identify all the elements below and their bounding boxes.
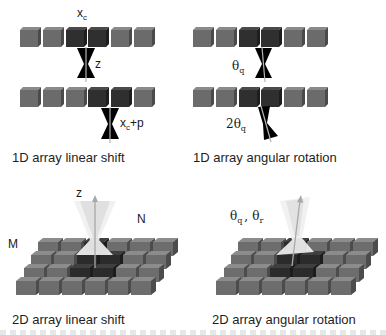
label-theta-q-theta-r: θq,θr — [230, 209, 263, 225]
diagram-canvas: z xc xc+p θq — [0, 0, 386, 335]
caption-1d-linear-shift: 1D array linear shift — [12, 150, 125, 165]
cropped-text-line — [0, 330, 386, 335]
cube-row-top — [20, 27, 155, 47]
cube-row-top — [193, 27, 328, 47]
caption-1d-angular-rotation: 1D array angular rotation — [193, 150, 337, 165]
panel-2d-angular-rotation: θq,θr — [216, 195, 378, 295]
label-xc: xc — [77, 6, 87, 22]
label-M: M — [8, 237, 18, 251]
label-2theta-q: 2θq — [226, 117, 246, 133]
beam-hourglass-bottom — [101, 107, 119, 143]
cube-row-bottom — [193, 87, 328, 107]
label-theta-q: θq — [232, 59, 244, 75]
label-xc-plus-p: xc+p — [120, 116, 144, 132]
label-z-axis: z — [76, 186, 82, 200]
label-N: N — [137, 212, 146, 226]
panel-1d-angular-rotation: θq 2θq — [193, 27, 328, 142]
caption-2d-angular-rotation: 2D array angular rotation — [212, 312, 356, 327]
caption-2d-linear-shift: 2D array linear shift — [12, 312, 125, 327]
panel-1d-linear-shift: z xc xc+p — [20, 6, 155, 143]
beam-hourglass-bottom-tilted — [258, 106, 278, 142]
beam-hourglass-top — [255, 47, 272, 82]
label-z: z — [95, 57, 101, 71]
cube-row-bottom — [20, 87, 155, 107]
panel-2d-linear-shift: z N M — [8, 186, 178, 295]
beam-hourglass-top — [77, 47, 95, 82]
